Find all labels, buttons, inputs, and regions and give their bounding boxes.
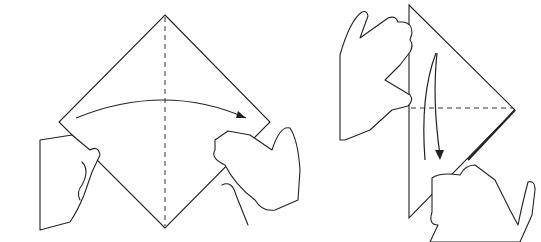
step-1-figure	[40, 15, 300, 230]
step-2-figure	[340, 5, 535, 242]
origami-illustration	[0, 0, 541, 242]
left-hand	[40, 135, 100, 230]
right-hand	[214, 128, 300, 211]
bottom-right-hand	[430, 165, 535, 242]
top-left-hand	[340, 12, 412, 141]
